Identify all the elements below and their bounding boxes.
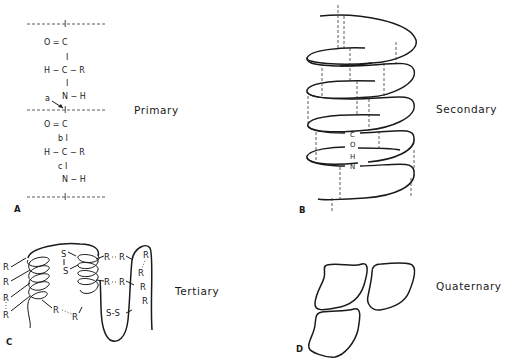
helix-coil [360, 131, 414, 162]
alpha-helix-left [27, 257, 49, 328]
bond-bar: I [64, 193, 66, 202]
side-chain-bond [11, 283, 30, 297]
interaction-line [142, 261, 145, 268]
panel-letter-b: B [299, 205, 305, 215]
panel-tertiary: R R R R S S R R R R R R R R R R S-S [3, 244, 219, 347]
subunit-1 [315, 264, 367, 310]
helix-coil [320, 15, 416, 63]
hbond-label-c: C [350, 131, 355, 139]
alpha-carbon-1: H − C − R [44, 66, 85, 75]
side-chain-bond [11, 296, 30, 311]
r-group: R [3, 293, 9, 303]
hbond-label-n: N [350, 163, 355, 171]
carbonyl-group-2: O = C [44, 120, 68, 129]
bond-bar: I [64, 20, 66, 29]
label-primary: Primary [134, 104, 179, 116]
r-group: R [3, 277, 9, 287]
r-group: R [72, 312, 78, 322]
interaction-line [62, 310, 72, 314]
r-group: R [104, 277, 110, 287]
r-group: R [104, 252, 110, 262]
panel-letter-c: C [6, 337, 12, 347]
panel-primary: I O = C I H − C − R I N − H a I O = C b … [14, 20, 179, 214]
hbond-label-h: H [350, 153, 355, 161]
bond-label-c: c I [58, 162, 67, 171]
side-chain-bond [70, 265, 78, 269]
subunit-3 [309, 309, 360, 357]
side-chain-bond [11, 258, 26, 267]
sulfur-atom: S [63, 266, 68, 276]
bond-bar: I [66, 79, 68, 88]
alpha-carbon-2: H − C − R [44, 148, 85, 157]
helix-coil [318, 164, 414, 200]
r-group: R [143, 250, 149, 260]
r-group: R [140, 282, 146, 292]
side-chain-bond [79, 307, 82, 313]
bond-bar: I [66, 53, 68, 62]
r-group: R [119, 252, 125, 262]
amide-group-1: N − H [62, 92, 86, 101]
helix-coil [307, 81, 375, 99]
carbonyl-group-1: O = C [44, 38, 68, 47]
label-tertiary: Tertiary [174, 285, 219, 297]
r-group: R [3, 310, 9, 320]
bond-label-a: a [45, 94, 50, 103]
panel-letter-d: D [296, 344, 303, 354]
r-group: R [138, 268, 144, 278]
side-chain-bond [42, 300, 52, 308]
sulfur-atom: S [61, 249, 66, 259]
panel-letter-a: A [14, 204, 21, 214]
bond-bar: I [64, 106, 66, 115]
label-quaternary: Quaternary [436, 280, 502, 292]
side-chain-bond [68, 252, 76, 256]
alpha-helix-middle [78, 255, 99, 294]
panel-secondary: C O H N B Secondary [299, 5, 497, 215]
r-group: R [119, 277, 125, 287]
label-secondary: Secondary [436, 103, 497, 115]
helix-coil [307, 48, 372, 64]
panel-quaternary: D Quaternary [296, 263, 502, 357]
protein-structure-diagram: I O = C I H − C − R I N − H a I O = C b … [0, 0, 510, 362]
side-chain-bond [96, 256, 104, 259]
bond-label-b: b I [58, 134, 68, 143]
hbond-label-o: O [350, 141, 356, 149]
amide-group-2: N − H [62, 175, 86, 184]
arrowhead-icon [58, 104, 63, 108]
r-group: R [142, 296, 148, 306]
side-chain-bond [11, 270, 30, 281]
r-group: R [53, 305, 59, 315]
r-group: R [3, 262, 9, 272]
disulfide-bridge: S-S [106, 308, 120, 318]
subunit-2 [368, 263, 415, 310]
